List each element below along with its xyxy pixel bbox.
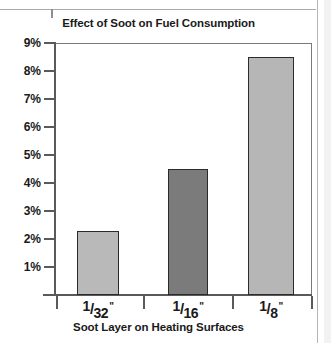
y-axis-tick-label: 2% xyxy=(0,233,41,245)
y-axis-tick-label-text: 4% xyxy=(7,177,41,189)
y-axis-tick xyxy=(44,70,55,72)
y-axis-tick-label-text: 3% xyxy=(7,205,41,217)
y-axis-tick xyxy=(44,182,55,184)
bar xyxy=(248,57,294,295)
y-axis-tick-label-text: 9% xyxy=(7,37,41,49)
inch-mark: " xyxy=(279,301,283,312)
fraction-denominator: 8 xyxy=(270,305,277,321)
x-axis-category-label: 1/16" xyxy=(143,299,233,320)
y-axis-tick-label: 6% xyxy=(0,121,41,133)
y-axis-tick xyxy=(44,210,55,212)
y-axis-tick-label-text: 5% xyxy=(7,149,41,161)
y-axis-tick xyxy=(44,126,55,128)
y-axis-tick-label-text: 2% xyxy=(7,233,41,245)
inch-mark: " xyxy=(109,301,113,312)
y-axis-tick-label: 3% xyxy=(0,205,41,217)
fraction-denominator: 16 xyxy=(184,305,199,321)
y-axis-tick xyxy=(44,98,55,100)
y-axis-tick-label: 4% xyxy=(0,177,41,189)
y-axis-tick-label-text: 6% xyxy=(7,121,41,133)
bar-chart-figure: Effect of Soot on Fuel Consumption 1%2%3… xyxy=(0,10,317,343)
y-axis-tick-label-text: 8% xyxy=(7,65,41,77)
page-right-margin xyxy=(324,0,331,343)
y-axis-tick-label-text: 1% xyxy=(7,261,41,273)
y-axis-tick-label: 5% xyxy=(0,149,41,161)
page-right-edge xyxy=(317,0,318,343)
y-axis-tick xyxy=(44,154,55,156)
y-axis-tick-label-text: 7% xyxy=(7,93,41,105)
chart-title: Effect of Soot on Fuel Consumption xyxy=(0,17,317,29)
fraction-denominator: 32 xyxy=(94,305,109,321)
y-axis-tick xyxy=(44,42,55,44)
inch-mark: " xyxy=(199,301,203,312)
y-axis-tick-label: 9% xyxy=(0,37,41,49)
fraction-numerator: 1 xyxy=(83,298,90,314)
bar xyxy=(77,231,119,295)
y-axis-tick-label: 8% xyxy=(0,65,41,77)
y-axis-line xyxy=(54,42,56,296)
fraction-numerator: 1 xyxy=(173,298,180,314)
y-axis-tick-label: 1% xyxy=(0,261,41,273)
x-axis-title: Soot Layer on Heating Surfaces xyxy=(0,321,317,333)
y-axis-tick xyxy=(44,238,55,240)
y-axis-tick xyxy=(44,266,55,268)
x-axis-category-label: 1/8" xyxy=(226,299,316,320)
fraction-numerator: 1 xyxy=(259,298,266,314)
bar xyxy=(168,169,208,295)
y-axis-tick-label: 7% xyxy=(0,93,41,105)
x-axis-category-label: 1/32" xyxy=(53,299,143,320)
